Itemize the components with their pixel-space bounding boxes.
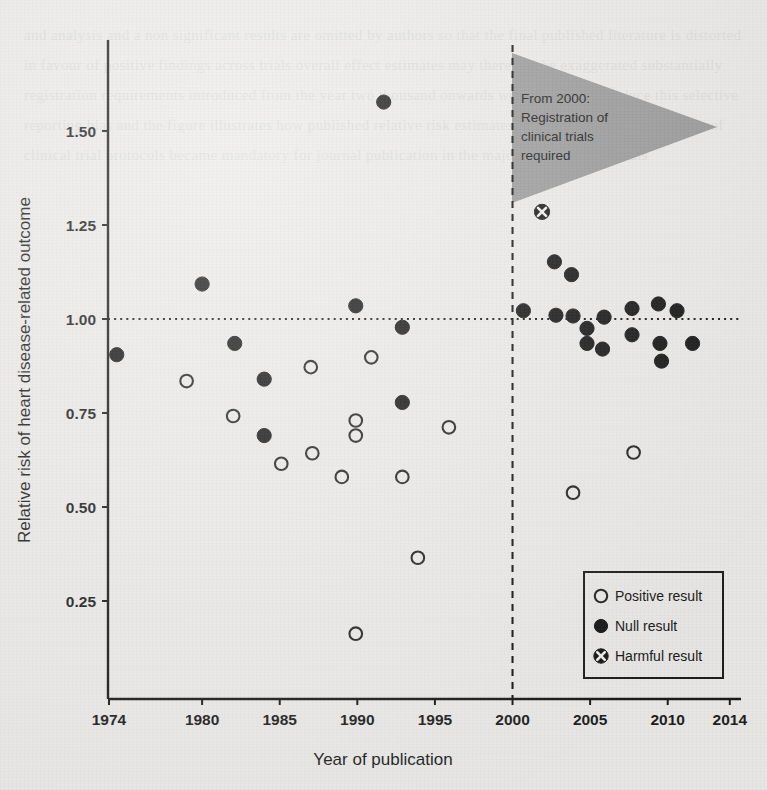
- data-point-null[interactable]: [195, 277, 209, 291]
- x-tick-label: 1995: [418, 711, 453, 728]
- data-point-null[interactable]: [257, 428, 271, 442]
- data-point-positive[interactable]: [365, 351, 378, 364]
- data-point-positive[interactable]: [349, 627, 362, 640]
- y-axis-title: Relative risk of heart disease-related o…: [15, 197, 34, 543]
- data-point-null[interactable]: [516, 304, 530, 318]
- flag-line-2: Registration of: [521, 110, 608, 125]
- x-axis-title: Year of publication: [313, 750, 452, 769]
- data-points-layer: [110, 95, 700, 640]
- y-tick-label: 1.25: [66, 217, 97, 234]
- x-tick-label: 2010: [650, 711, 684, 728]
- data-point-positive[interactable]: [349, 429, 362, 442]
- data-point-null[interactable]: [685, 336, 699, 350]
- chart-figure: From 2000: Registration of clinical tria…: [0, 0, 767, 790]
- registration-flag-shape: [512, 53, 717, 203]
- data-point-null[interactable]: [547, 255, 561, 269]
- data-point-null[interactable]: [257, 372, 271, 386]
- data-point-null[interactable]: [597, 310, 611, 324]
- data-point-null[interactable]: [549, 308, 563, 322]
- data-point-null[interactable]: [110, 348, 124, 362]
- data-point-positive[interactable]: [336, 471, 349, 484]
- x-axis-ticks: 197419801985199019952000200520102014: [92, 699, 748, 728]
- y-axis-ticks: 0.250.500.751.001.251.50: [66, 123, 108, 610]
- x-tick-label: 1974: [92, 711, 127, 728]
- data-point-positive[interactable]: [567, 486, 580, 499]
- legend-label-harmful: Harmful result: [615, 648, 702, 664]
- data-point-positive[interactable]: [306, 447, 319, 460]
- y-tick-label: 1.50: [66, 123, 96, 140]
- data-point-harmful[interactable]: [534, 204, 549, 219]
- legend-label-null: Null result: [615, 618, 677, 634]
- y-tick-label: 0.75: [66, 405, 97, 422]
- x-tick-label: 1985: [262, 711, 297, 728]
- data-point-positive[interactable]: [227, 410, 240, 423]
- data-point-null[interactable]: [625, 301, 639, 315]
- registration-flag-annotation: From 2000: Registration of clinical tria…: [512, 53, 717, 203]
- data-point-null[interactable]: [580, 336, 594, 350]
- x-tick-label: 2005: [573, 711, 608, 728]
- data-point-null[interactable]: [349, 299, 363, 313]
- data-point-null[interactable]: [595, 342, 609, 356]
- x-tick-label: 1990: [340, 711, 374, 728]
- data-point-null[interactable]: [670, 304, 684, 318]
- data-point-null[interactable]: [651, 297, 665, 311]
- data-point-positive[interactable]: [275, 457, 288, 470]
- y-tick-label: 0.50: [66, 499, 96, 516]
- flag-line-1: From 2000:: [521, 91, 590, 106]
- data-point-null[interactable]: [395, 320, 409, 334]
- legend[interactable]: Positive result Null result Harmful resu…: [584, 572, 723, 678]
- data-point-null[interactable]: [654, 354, 668, 368]
- data-point-null[interactable]: [653, 336, 667, 350]
- data-point-null[interactable]: [580, 321, 594, 335]
- open-circle-icon: [595, 590, 607, 602]
- data-point-positive[interactable]: [349, 414, 362, 427]
- data-point-positive[interactable]: [443, 421, 456, 434]
- series-harmful-result: [534, 204, 549, 219]
- scatter-plot-svg: From 2000: Registration of clinical tria…: [0, 0, 767, 790]
- data-point-null[interactable]: [625, 328, 639, 342]
- data-point-null[interactable]: [564, 268, 578, 282]
- x-tick-label: 1980: [185, 711, 219, 728]
- flag-line-4: required: [521, 148, 571, 163]
- x-tick-label: 2000: [495, 711, 529, 728]
- data-point-positive[interactable]: [412, 551, 425, 564]
- data-point-positive[interactable]: [627, 446, 640, 459]
- y-tick-label: 0.25: [66, 593, 97, 610]
- data-point-null[interactable]: [395, 395, 409, 409]
- x-tick-label: 2014: [713, 711, 748, 728]
- y-tick-label: 1.00: [66, 311, 96, 328]
- legend-label-positive: Positive result: [615, 588, 702, 604]
- data-point-positive[interactable]: [304, 361, 317, 374]
- data-point-null[interactable]: [566, 309, 580, 323]
- data-point-positive[interactable]: [180, 375, 193, 388]
- data-point-positive[interactable]: [396, 471, 409, 484]
- data-point-null[interactable]: [377, 95, 391, 109]
- series-positive-result: [180, 351, 640, 640]
- filled-circle-icon: [594, 619, 607, 632]
- data-point-null[interactable]: [228, 336, 242, 350]
- flag-line-3: clinical trials: [521, 129, 594, 144]
